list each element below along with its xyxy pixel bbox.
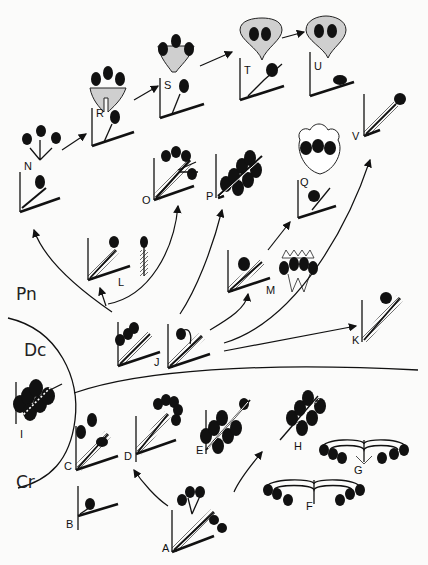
diagram-svg: Pn Dc Cr A B C D E F G H I J K L M N O P… xyxy=(0,0,428,565)
panel-label-e: E xyxy=(196,444,203,456)
panel-f xyxy=(263,480,365,506)
panel-label-a: A xyxy=(162,542,170,554)
panel-o xyxy=(154,146,198,200)
panel-label-l: L xyxy=(118,276,124,288)
panel-t xyxy=(240,18,284,100)
panel-u xyxy=(306,16,354,96)
panel-v xyxy=(364,93,406,136)
panel-c xyxy=(76,413,118,470)
panel-label-r: R xyxy=(96,107,104,119)
panel-label-p: P xyxy=(206,190,213,202)
panel-label-s: S xyxy=(164,79,171,91)
panel-label-t: T xyxy=(244,64,251,76)
panel-k xyxy=(362,292,400,342)
panel-q xyxy=(298,124,340,218)
panel-b xyxy=(78,486,118,530)
panel-s xyxy=(158,34,204,118)
panel-label-g: G xyxy=(354,464,363,476)
panel-label-q: Q xyxy=(300,176,309,188)
panel-g xyxy=(319,440,409,464)
panel-label-d: D xyxy=(124,450,132,462)
panel-j xyxy=(115,322,210,368)
group-label-dc: Dc xyxy=(24,340,46,360)
panel-h xyxy=(280,390,326,440)
panel-e xyxy=(200,398,250,454)
panel-d xyxy=(136,394,183,462)
panel-label-o: O xyxy=(142,194,151,206)
panel-label-u: U xyxy=(314,60,322,72)
panel-label-i: I xyxy=(20,428,23,440)
panel-label-c: C xyxy=(64,460,72,472)
panel-r xyxy=(90,66,134,146)
panel-label-v: V xyxy=(352,130,360,142)
group-label-cr: Cr xyxy=(16,472,35,492)
panel-label-m: M xyxy=(266,284,275,296)
panel-label-f: F xyxy=(306,500,313,512)
panel-p xyxy=(216,150,262,198)
diagram-canvas: Pn Dc Cr A B C D E F G H I J K L M N O P… xyxy=(0,0,428,565)
panel-label-j: J xyxy=(154,356,160,368)
dc-pn-divider-line xyxy=(74,367,418,393)
panel-label-k: K xyxy=(352,334,360,346)
panel-a xyxy=(172,486,227,552)
panel-label-h: H xyxy=(294,440,302,452)
panel-label-b: B xyxy=(66,518,73,530)
panel-label-n: N xyxy=(24,160,32,172)
panel-l xyxy=(88,236,148,280)
panel-i xyxy=(13,379,62,424)
group-label-pn: Pn xyxy=(16,284,37,304)
